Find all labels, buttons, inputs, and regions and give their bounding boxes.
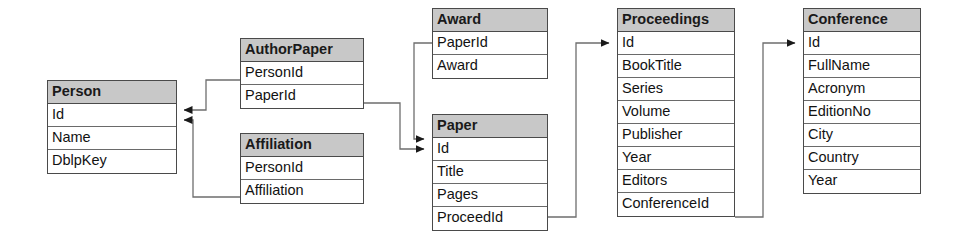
attribute-row[interactable]: PersonId bbox=[241, 62, 363, 85]
attribute-row[interactable]: Editors bbox=[618, 170, 734, 193]
attribute-row[interactable]: Volume bbox=[618, 101, 734, 124]
attribute-row[interactable]: Pages bbox=[433, 184, 547, 207]
attribute-row[interactable]: PaperId bbox=[241, 85, 363, 108]
attribute-row[interactable]: DblpKey bbox=[48, 150, 176, 173]
connector-award-paperid-to-paper-id bbox=[414, 43, 432, 139]
attribute-row[interactable]: Year bbox=[618, 147, 734, 170]
attribute-row[interactable]: PersonId bbox=[241, 157, 363, 180]
attribute-list-person: IdNameDblpKey bbox=[48, 104, 176, 173]
attribute-row[interactable]: Publisher bbox=[618, 124, 734, 147]
attribute-row[interactable]: City bbox=[804, 124, 920, 147]
connector-authorpaper-personid-to-person-id bbox=[184, 80, 240, 110]
attribute-list-proceedings: IdBookTitleSeriesVolumePublisherYearEdit… bbox=[618, 32, 734, 216]
attribute-row[interactable]: Affiliation bbox=[241, 180, 363, 203]
attribute-row[interactable]: Country bbox=[804, 147, 920, 170]
attribute-row[interactable]: PaperId bbox=[433, 32, 547, 55]
connector-proceedings-conferenceid-to-conference-id bbox=[735, 43, 795, 217]
attribute-row[interactable]: Series bbox=[618, 78, 734, 101]
entity-authorpaper[interactable]: AuthorPaperPersonIdPaperId bbox=[240, 38, 364, 109]
entity-title-affiliation: Affiliation bbox=[241, 134, 363, 157]
entity-title-award: Award bbox=[433, 9, 547, 32]
attribute-row[interactable]: FullName bbox=[804, 55, 920, 78]
entity-person[interactable]: PersonIdNameDblpKey bbox=[47, 80, 177, 174]
attribute-row[interactable]: ConferenceId bbox=[618, 193, 734, 216]
attribute-row[interactable]: Name bbox=[48, 127, 176, 150]
entity-paper[interactable]: PaperIdTitlePagesProceedId bbox=[432, 114, 548, 231]
attribute-row[interactable]: Acronym bbox=[804, 78, 920, 101]
attribute-row[interactable]: ProceedId bbox=[433, 207, 547, 230]
er-diagram-canvas: PersonIdNameDblpKeyAuthorPaperPersonIdPa… bbox=[0, 0, 967, 247]
entity-award[interactable]: AwardPaperIdAward bbox=[432, 8, 548, 79]
connector-authorpaper-paperid-to-paper-id bbox=[364, 103, 424, 149]
entity-proceedings[interactable]: ProceedingsIdBookTitleSeriesVolumePublis… bbox=[617, 8, 735, 217]
attribute-list-authorpaper: PersonIdPaperId bbox=[241, 62, 363, 108]
entity-title-authorpaper: AuthorPaper bbox=[241, 39, 363, 62]
entity-title-person: Person bbox=[48, 81, 176, 104]
entity-title-paper: Paper bbox=[433, 115, 547, 138]
attribute-list-affiliation: PersonIdAffiliation bbox=[241, 157, 363, 203]
connector-affiliation-personid-to-person-id bbox=[184, 120, 240, 197]
attribute-row[interactable]: Id bbox=[433, 138, 547, 161]
attribute-row[interactable]: Id bbox=[618, 32, 734, 55]
attribute-row[interactable]: Title bbox=[433, 161, 547, 184]
attribute-row[interactable]: Id bbox=[804, 32, 920, 55]
entity-affiliation[interactable]: AffiliationPersonIdAffiliation bbox=[240, 133, 364, 204]
entity-title-proceedings: Proceedings bbox=[618, 9, 734, 32]
attribute-list-award: PaperIdAward bbox=[433, 32, 547, 78]
connector-paper-proceedid-to-proceedings-id bbox=[548, 43, 609, 217]
entity-title-conference: Conference bbox=[804, 9, 920, 32]
attribute-row[interactable]: Award bbox=[433, 55, 547, 78]
entity-conference[interactable]: ConferenceIdFullNameAcronymEditionNoCity… bbox=[803, 8, 921, 194]
attribute-row[interactable]: Year bbox=[804, 170, 920, 193]
attribute-row[interactable]: EditionNo bbox=[804, 101, 920, 124]
attribute-row[interactable]: BookTitle bbox=[618, 55, 734, 78]
attribute-list-conference: IdFullNameAcronymEditionNoCityCountryYea… bbox=[804, 32, 920, 193]
attribute-list-paper: IdTitlePagesProceedId bbox=[433, 138, 547, 230]
attribute-row[interactable]: Id bbox=[48, 104, 176, 127]
